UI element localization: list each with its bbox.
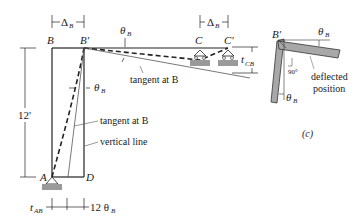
- node-b-prime-label: B': [80, 34, 90, 46]
- theta-top-arrow-2: [122, 58, 124, 62]
- support-c-prime: [218, 50, 238, 66]
- detail-90-degree: 90°: [288, 68, 298, 76]
- vertical-line-leader: [85, 142, 98, 146]
- detail-position: position: [313, 83, 345, 94]
- delta-right-sub: B: [215, 22, 220, 30]
- tangent-col-label: tangent at B: [100, 115, 149, 126]
- detail-deflected: deflected: [311, 71, 348, 82]
- t-cb-sub: CB: [245, 60, 255, 68]
- node-d-label: D: [85, 171, 94, 183]
- support-c: [190, 50, 210, 66]
- t-ab-sub: AB: [33, 207, 43, 215]
- theta-b-top: θ: [120, 24, 126, 36]
- node-c-label: C: [195, 34, 203, 46]
- theta-col: θ: [94, 81, 100, 93]
- height-label: 12': [18, 109, 31, 121]
- tangent-col-leader: [74, 121, 98, 126]
- tangent-top-leader: [140, 66, 143, 73]
- delta-left-sub: B: [69, 22, 74, 30]
- vertical-line-label: vertical line: [100, 136, 148, 147]
- bottom-dimensions: [46, 198, 89, 210]
- node-c-prime-label: C': [224, 34, 234, 46]
- detail-theta-top: θ: [318, 25, 324, 37]
- detail-theta-top-sub: B: [325, 31, 330, 39]
- node-a-label: A: [39, 171, 47, 183]
- original-frame: [52, 48, 228, 177]
- deflected-shape: [52, 48, 228, 177]
- frame-deflection-diagram: B B' C C' A D Δ B Δ B θ B tangent at B t…: [0, 0, 363, 223]
- delta-left-symbol: Δ: [61, 16, 68, 28]
- node-b-label: B: [47, 34, 54, 46]
- caption-c: (c): [302, 128, 314, 140]
- twelve-theta-label: 12 θ: [90, 201, 109, 213]
- tangent-top-label: tangent at B: [130, 74, 179, 85]
- delta-right-symbol: Δ: [207, 16, 214, 28]
- theta-b-top-sub: B: [127, 30, 132, 38]
- tangent-lines: [68, 48, 250, 177]
- detail-theta-bottom: θ: [286, 91, 292, 103]
- twelve-theta-sub: B: [111, 207, 116, 215]
- detail-b-prime: B': [272, 28, 282, 40]
- theta-col-sub: B: [101, 87, 106, 95]
- detail-theta-bottom-sub: B: [293, 97, 298, 105]
